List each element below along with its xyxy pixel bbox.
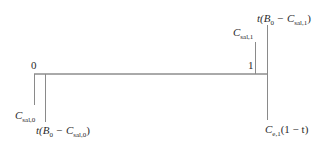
c-sal-0-sub: sal,0 [22, 116, 35, 124]
t-b0-c-sal-1-suffix: ) [307, 12, 311, 24]
c-sal-1-sub: sal,1 [240, 33, 253, 41]
t-b0-c-sal-0-csub: sal,0 [73, 131, 86, 139]
c-e1-label: Ce,1(1 − t) [265, 124, 308, 135]
c-sal-1-label: Csal,1 [233, 27, 253, 38]
t-b0-c-sal-1-middle: − C [274, 12, 294, 24]
t-b0-c-sal-0-label: t(B0 − Csal,0) [36, 125, 90, 136]
axis-end-text: 1 [248, 59, 254, 71]
t-b0-c-sal-1-prefix: t(B [257, 12, 270, 24]
t-b0-c-sal-0-bsub: 0 [49, 131, 53, 139]
axis-start-text: 0 [31, 59, 37, 71]
t-b0-c-sal-0-suffix: ) [86, 124, 90, 136]
t-b0-c-sal-1-bsub: 0 [270, 19, 274, 27]
t-b0-c-sal-0-middle: − C [53, 124, 73, 136]
c-e1-sub: e,1 [272, 130, 280, 138]
t-b0-c-sal-1-csub: sal,1 [294, 19, 307, 27]
c-e1-suffix: (1 − t) [281, 123, 309, 135]
axis-end-label: 1 [248, 60, 254, 71]
c-sal-0-label: Csal,0 [15, 110, 35, 121]
t-b0-c-sal-1-label: t(B0 − Csal,1) [257, 13, 311, 24]
axis-start-label: 0 [31, 60, 37, 71]
t-b0-c-sal-0-prefix: t(B [36, 124, 49, 136]
